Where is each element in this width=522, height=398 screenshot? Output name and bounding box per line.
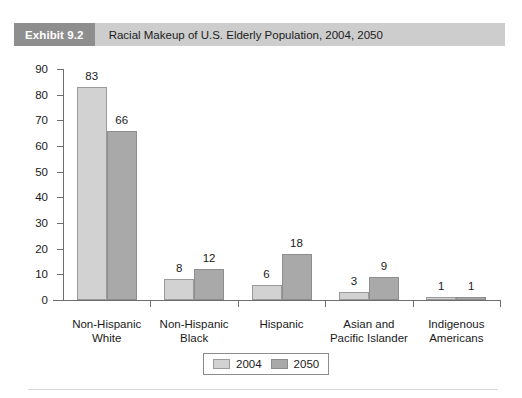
y-axis-line: [63, 69, 64, 300]
bar-value-label: 12: [203, 252, 216, 264]
legend-swatch-2004: [213, 359, 230, 369]
bar-2004-2: [252, 285, 282, 300]
x-axis-category-label: Non-HispanicWhite: [72, 317, 141, 345]
y-axis-tick-label: 70: [35, 114, 48, 126]
y-axis-tick-label: 50: [35, 166, 48, 178]
category-label-line: Hispanic: [259, 317, 303, 331]
bar-2004-3: [339, 292, 369, 300]
y-axis-tick-label: 0: [42, 294, 48, 306]
legend-label-2050: 2050: [294, 358, 320, 370]
bar-value-label: 66: [115, 114, 128, 126]
bar-value-label: 1: [468, 280, 474, 292]
y-axis-tick: 90: [57, 69, 63, 70]
legend-label-2004: 2004: [236, 358, 262, 370]
x-axis-category-label: IndigenousAmericans: [428, 317, 484, 345]
bar-2004-1: [164, 279, 194, 300]
x-axis-tick: [500, 300, 501, 307]
y-axis-tick: 20: [57, 249, 63, 250]
x-axis-tick: [150, 300, 151, 307]
y-axis-tick-label: 20: [35, 243, 48, 255]
bar-2050-4: [456, 297, 486, 300]
x-axis-tick: [413, 300, 414, 307]
y-axis-tick: 30: [57, 223, 63, 224]
plot-area: 0102030405060708090 83668126183911 Non-H…: [63, 69, 500, 300]
y-axis-tick-label: 60: [35, 140, 48, 152]
legend-item-2004: 2004: [213, 358, 262, 370]
bar-2050-1: [194, 269, 224, 300]
bar-value-label: 6: [263, 268, 269, 280]
y-axis-tick: 80: [57, 95, 63, 96]
category-label-line: Asian and: [330, 317, 408, 331]
y-axis-tick: 70: [57, 120, 63, 121]
page-bottom-rule: [28, 389, 498, 390]
bar-value-label: 1: [438, 280, 444, 292]
exhibit-number-tag: Exhibit 9.2: [14, 23, 95, 46]
bar-2004-0: [77, 87, 107, 300]
bar-value-label: 3: [351, 275, 357, 287]
y-axis-tick: 50: [57, 172, 63, 173]
y-axis-tick-label: 90: [35, 63, 48, 75]
bar-chart: 0102030405060708090 83668126183911 Non-H…: [0, 55, 522, 355]
legend-swatch-2050: [271, 359, 288, 369]
exhibit-title: Racial Makeup of U.S. Elderly Population…: [95, 23, 383, 46]
bar-value-label: 9: [381, 260, 387, 272]
y-axis-tick: 10: [57, 274, 63, 275]
x-axis-tick: [325, 300, 326, 307]
category-label-line: Black: [160, 331, 229, 345]
y-axis-tick-label: 30: [35, 217, 48, 229]
category-label-line: Pacific Islander: [330, 331, 408, 345]
exhibit-header: Exhibit 9.2 Racial Makeup of U.S. Elderl…: [14, 23, 505, 46]
category-label-line: Americans: [428, 331, 484, 345]
y-axis-tick: 60: [57, 146, 63, 147]
bar-2050-3: [369, 277, 399, 300]
category-label-line: Non-Hispanic: [72, 317, 141, 331]
bar-value-label: 18: [290, 237, 303, 249]
x-axis-tick: [238, 300, 239, 307]
bar-value-label: 83: [85, 70, 98, 82]
bar-2050-2: [282, 254, 312, 300]
chart-legend: 20042050: [203, 353, 329, 375]
bar-2050-0: [107, 131, 137, 300]
bar-value-label: 8: [176, 262, 182, 274]
y-axis-tick: 40: [57, 197, 63, 198]
x-axis-category-label: Asian andPacific Islander: [330, 317, 408, 345]
y-axis-tick-label: 80: [35, 89, 48, 101]
x-axis-category-label: Non-HispanicBlack: [160, 317, 229, 345]
y-axis-tick: 0: [57, 300, 63, 301]
category-label-line: Indigenous: [428, 317, 484, 331]
x-axis-line: [53, 300, 500, 301]
bar-2004-4: [426, 297, 456, 300]
x-axis-category-label: Hispanic: [259, 317, 303, 331]
y-axis-tick-label: 40: [35, 191, 48, 203]
category-label-line: White: [72, 331, 141, 345]
category-label-line: Non-Hispanic: [160, 317, 229, 331]
legend-item-2050: 2050: [271, 358, 320, 370]
y-axis-tick-label: 10: [35, 268, 48, 280]
